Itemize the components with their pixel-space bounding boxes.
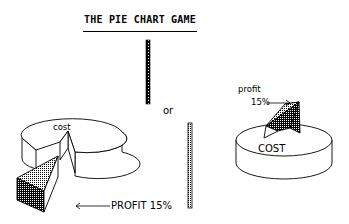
right-pie bbox=[236, 102, 332, 179]
right-cost-label: COST bbox=[258, 143, 285, 154]
left-profit-label: PROFIT 15% bbox=[111, 200, 172, 211]
left-profit-arrow bbox=[76, 203, 110, 209]
diagram-canvas bbox=[0, 0, 349, 224]
right-profit-arrow bbox=[267, 100, 290, 106]
right-profit-label: profit bbox=[238, 84, 261, 94]
left-cost-label: cost bbox=[53, 122, 71, 132]
right-profit-percent: 15% bbox=[251, 97, 270, 107]
upper-separator-bar bbox=[146, 40, 150, 104]
lower-separator-bar bbox=[188, 123, 192, 208]
left-pie bbox=[17, 119, 140, 212]
or-separator: or bbox=[163, 105, 173, 116]
